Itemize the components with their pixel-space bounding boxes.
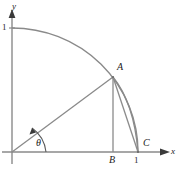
point-label-b: B [109,155,115,165]
y-axis-label: y [12,2,16,11]
point-marker-C [137,151,139,153]
x-axis-arrowhead [160,148,170,155]
radius-segment-OA [12,77,113,152]
point-marker-A [112,76,114,78]
chord-segment-AC [113,77,138,152]
point-label-a: A [117,62,123,72]
x-axis-label: x [171,147,175,156]
angle-label-theta: θ [36,138,41,148]
geometry-figure: y x 1 1 A B C θ [0,0,180,176]
y-axis-tick-label: 1 [2,23,7,32]
point-label-c: C [143,138,150,148]
angle-arc-arrowhead [30,128,37,135]
x-axis-tick-label: 1 [134,156,139,165]
geometry-diagram-canvas [0,0,180,176]
